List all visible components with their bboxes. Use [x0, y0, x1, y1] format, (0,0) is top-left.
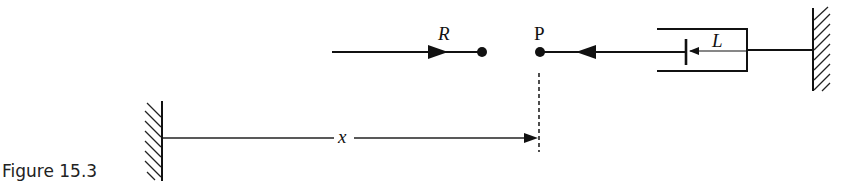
label-p: P: [534, 23, 545, 44]
label-l: L: [711, 30, 723, 51]
arrow-left-small-icon: [689, 47, 699, 55]
figure-diagram: R P L x: [0, 0, 868, 185]
right-wall: [813, 7, 830, 91]
arrow-right-dim-icon: [524, 133, 538, 143]
x-dimension: [163, 133, 538, 143]
cylinder: [657, 29, 813, 71]
r-rod: [332, 45, 487, 59]
label-x: x: [337, 126, 347, 147]
arrow-left-icon: [576, 45, 596, 59]
figure-caption: Figure 15.3: [2, 161, 97, 181]
label-r: R: [437, 23, 450, 44]
r-end-dot: [477, 47, 487, 57]
l-rod: [535, 45, 686, 59]
arrow-right-icon: [428, 45, 448, 59]
left-wall: [145, 101, 162, 181]
